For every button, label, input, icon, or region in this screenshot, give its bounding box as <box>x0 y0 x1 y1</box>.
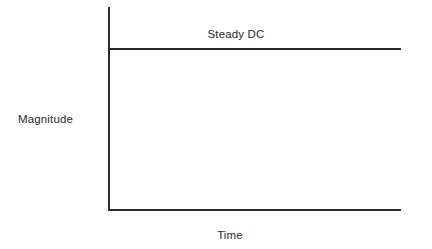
steady-dc-annotation: Steady DC <box>0 28 432 41</box>
x-axis-label: Time <box>0 229 432 242</box>
dc-waveform-figure: Steady DC Magnitude Time <box>0 0 432 249</box>
y-axis-label: Magnitude <box>18 113 73 126</box>
